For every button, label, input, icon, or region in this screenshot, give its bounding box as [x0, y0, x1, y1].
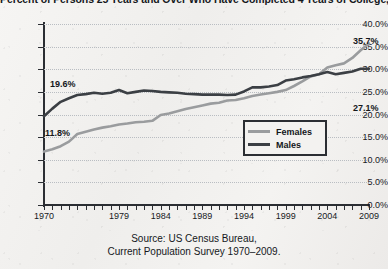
- data-label: 27.1%: [353, 103, 379, 113]
- x-tick-mark: [44, 205, 45, 210]
- x-tick-mark: [236, 205, 237, 210]
- x-tick-mark: [194, 205, 195, 210]
- x-tick-mark: [69, 205, 70, 210]
- data-label: 19.6%: [50, 79, 76, 89]
- legend-label-males: Males: [276, 140, 301, 150]
- x-tick-label: 1994: [234, 211, 254, 221]
- x-tick-mark: [111, 205, 112, 210]
- chart-title: Percent of Persons 25 Years and Over Who…: [0, 0, 388, 5]
- x-tick-mark: [361, 205, 362, 210]
- x-tick-mark: [94, 205, 95, 210]
- x-tick-mark: [261, 205, 262, 210]
- x-tick-mark: [277, 205, 278, 210]
- x-tick-mark: [269, 205, 270, 210]
- legend-swatch-females: [248, 130, 270, 133]
- source-note: Source: US Census Bureau, Current Popula…: [0, 232, 388, 258]
- x-tick-mark: [286, 205, 287, 210]
- x-tick-mark: [119, 205, 120, 210]
- legend-label-females: Females: [276, 127, 312, 137]
- x-tick-mark: [336, 205, 337, 210]
- series-plot: [44, 24, 369, 205]
- x-tick-label: 1999: [276, 211, 296, 221]
- x-tick-mark: [102, 205, 103, 210]
- x-tick-mark: [227, 205, 228, 210]
- source-line-2: Current Population Survey 1970–2009.: [0, 245, 388, 258]
- source-line-1: Source: US Census Bureau,: [0, 232, 388, 245]
- x-tick-label: 2004: [317, 211, 337, 221]
- legend-swatch-males: [248, 143, 270, 147]
- x-tick-mark: [136, 205, 137, 210]
- x-tick-mark: [369, 205, 370, 210]
- x-tick-label: 1979: [109, 211, 129, 221]
- x-tick-mark: [327, 205, 328, 210]
- x-tick-mark: [86, 205, 87, 210]
- legend-item-females: Females: [248, 125, 321, 138]
- x-tick-label: 1970: [34, 211, 54, 221]
- x-tick-label: 2009: [359, 211, 379, 221]
- x-tick-label: 1989: [192, 211, 212, 221]
- legend-item-males: Males: [248, 138, 321, 151]
- x-tick-mark: [344, 205, 345, 210]
- x-tick-mark: [61, 205, 62, 210]
- x-tick-mark: [77, 205, 78, 210]
- x-tick-mark: [169, 205, 170, 210]
- x-tick-label: 1984: [151, 211, 171, 221]
- x-tick-mark: [352, 205, 353, 210]
- chart-legend: Females Males: [243, 120, 327, 156]
- data-label: 11.8%: [45, 128, 70, 138]
- series-line-males: [44, 69, 369, 117]
- x-tick-mark: [252, 205, 253, 210]
- x-tick-mark: [127, 205, 128, 210]
- x-tick-mark: [311, 205, 312, 210]
- x-tick-mark: [152, 205, 153, 210]
- x-tick-mark: [294, 205, 295, 210]
- x-tick-mark: [219, 205, 220, 210]
- x-tick-mark: [177, 205, 178, 210]
- x-tick-mark: [211, 205, 212, 210]
- x-tick-mark: [244, 205, 245, 210]
- x-tick-mark: [52, 205, 53, 210]
- x-tick-mark: [186, 205, 187, 210]
- x-tick-mark: [319, 205, 320, 210]
- x-tick-mark: [144, 205, 145, 210]
- x-tick-mark: [161, 205, 162, 210]
- x-tick-mark: [202, 205, 203, 210]
- data-label: 35.7%: [353, 36, 379, 46]
- x-tick-mark: [302, 205, 303, 210]
